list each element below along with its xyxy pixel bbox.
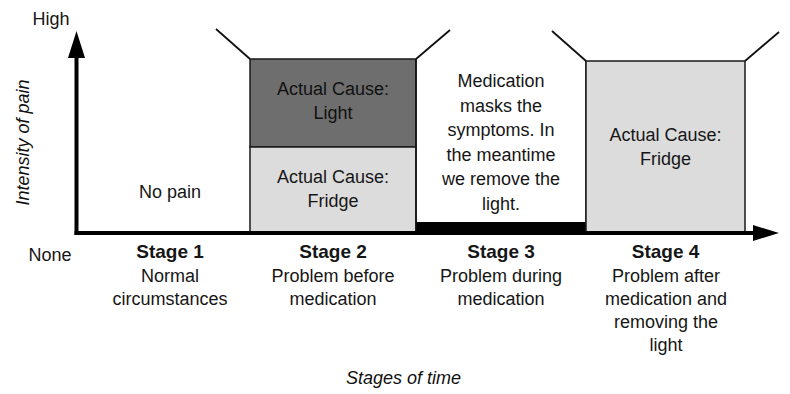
stage2-fridge-cause-label: Actual Cause: Fridge: [250, 165, 416, 213]
stage2-desc: Problem before medication: [240, 265, 426, 311]
y-axis-title: Intensity of pain: [13, 68, 34, 218]
stage4-left-flare: [552, 31, 586, 61]
stage3-title: Stage 3: [416, 241, 586, 263]
stage2-right-flare: [416, 30, 450, 59]
stage1-desc: Normal circumstances: [80, 265, 260, 311]
stage2-left-flare: [216, 29, 250, 59]
x-axis-title: Stages of time: [346, 368, 461, 389]
x-axis-arrowhead: [753, 225, 779, 241]
stage3-desc: Problem during medication: [411, 265, 591, 311]
stage2-light-cause-label: Actual Cause: Light: [250, 77, 416, 125]
stage4-title: Stage 4: [586, 241, 745, 263]
stage2-title: Stage 2: [250, 241, 416, 263]
stage4-desc: Problem after medication and removing th…: [576, 265, 756, 357]
y-axis-high-label: High: [26, 8, 76, 30]
stage3-note: Medication masks the symptoms. In the me…: [416, 69, 586, 216]
stage4-fridge-cause-label: Actual Cause: Fridge: [586, 123, 745, 171]
y-axis-arrowhead: [68, 31, 85, 58]
stage1-content: No pain: [95, 181, 245, 203]
stage1-title: Stage 1: [95, 241, 245, 263]
y-axis-none-label: None: [18, 244, 82, 266]
stage4-right-flare: [745, 32, 779, 61]
